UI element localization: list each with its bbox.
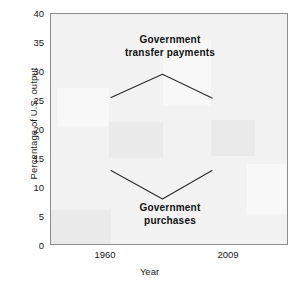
plot-area: Government transfer payments Government … xyxy=(50,13,288,245)
y-tick-20: 20 xyxy=(20,125,44,135)
y-tick-5: 5 xyxy=(20,212,44,222)
chart-figure: Percentage of U.S. output 40 35 30 25 20… xyxy=(0,0,299,293)
y-tick-35: 35 xyxy=(20,38,44,48)
y-tick-10: 10 xyxy=(20,183,44,193)
y-tick-0: 0 xyxy=(20,241,44,251)
line-government-purchases xyxy=(111,171,212,199)
annotation-purchases-line1: Government xyxy=(140,202,201,213)
line-government-transfer-payments xyxy=(111,74,212,98)
annotation-transfer-payments: Government transfer payments xyxy=(111,34,229,59)
y-tick-15: 15 xyxy=(20,154,44,164)
annotation-purchases: Government purchases xyxy=(111,202,229,227)
y-tick-25: 25 xyxy=(20,96,44,106)
x-tick-2009: 2009 xyxy=(208,249,248,260)
annotation-transfer-line2: transfer payments xyxy=(125,47,215,58)
y-axis-tick-labels: 40 35 30 25 20 15 10 5 0 xyxy=(18,0,44,293)
x-axis-label: Year xyxy=(0,266,299,277)
y-tick-30: 30 xyxy=(20,67,44,77)
annotation-purchases-line2: purchases xyxy=(144,215,196,226)
annotation-transfer-line1: Government xyxy=(140,34,201,45)
y-tick-40: 40 xyxy=(20,9,44,19)
x-tick-1960: 1960 xyxy=(85,249,125,260)
